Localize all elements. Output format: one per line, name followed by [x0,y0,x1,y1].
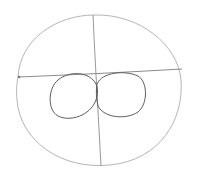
head-circle [17,15,182,166]
horizontal-guide-line [18,69,182,77]
left-eye-oval [50,74,97,119]
vertical-guide-line [93,15,101,166]
face-sketch [0,0,198,185]
guide-endpoint-mark [18,76,20,78]
sketch-canvas [0,0,198,185]
right-eye-oval [96,73,145,117]
